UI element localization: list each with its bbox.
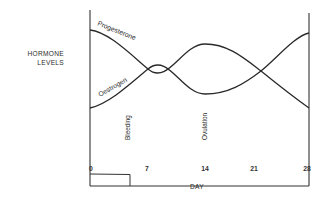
x-tick-21: 21 xyxy=(250,165,258,172)
hormone-chart: Progesterone Oestrogen Bleeding Ovulatio… xyxy=(0,0,328,205)
x-axis-label: DAY xyxy=(190,183,204,190)
progesterone-curve xyxy=(90,30,309,108)
x-tick-14: 14 xyxy=(201,165,209,172)
progesterone-label: Progesterone xyxy=(96,19,137,42)
ovulation-label: Ovulation xyxy=(201,113,208,140)
oestrogen-label: Oestrogen xyxy=(97,76,129,99)
x-tick-7: 7 xyxy=(145,165,149,172)
x-tick-0: 0 xyxy=(89,165,93,172)
bleeding-label: Bleeding xyxy=(124,115,132,140)
bleeding-box xyxy=(90,174,130,186)
x-tick-28: 28 xyxy=(303,165,311,172)
